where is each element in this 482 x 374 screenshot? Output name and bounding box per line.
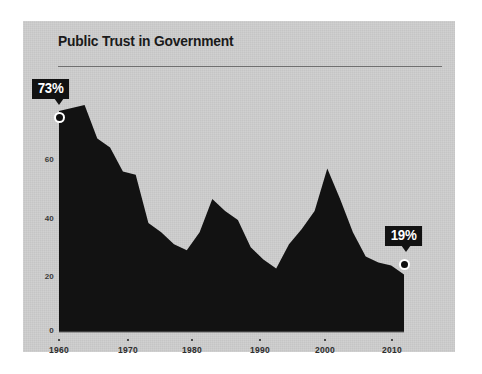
area-chart-plot — [23, 21, 455, 352]
y-tick-label-60: 60 — [34, 155, 54, 164]
x-tick-mark-2010 — [391, 339, 393, 341]
x-tick-mark-1990 — [259, 339, 261, 341]
x-tick-mark-1960 — [58, 339, 60, 341]
y-tick-label-0: 0 — [34, 326, 54, 335]
x-tick-mark-1980 — [191, 339, 193, 341]
chart-screenshot: Public Trust in Government 60 40 20 0 19… — [0, 0, 482, 374]
trust-area-series — [59, 105, 404, 332]
x-tick-mark-1970 — [127, 339, 129, 341]
latest-value-callout: 19% — [385, 226, 424, 252]
callout-pointer-icon — [54, 98, 64, 105]
x-tick-label-2000: 2000 — [305, 345, 345, 355]
y-tick-label-40: 40 — [34, 214, 54, 223]
x-tick-label-1990: 1990 — [240, 345, 280, 355]
callout-pointer-icon — [401, 245, 411, 252]
chart-card: Public Trust in Government 60 40 20 0 19… — [23, 21, 455, 352]
x-tick-label-1960: 1960 — [39, 345, 79, 355]
y-tick-label-20: 20 — [34, 272, 54, 281]
x-tick-label-2010: 2010 — [372, 345, 412, 355]
x-tick-label-1980: 1980 — [172, 345, 212, 355]
latest-value-label: 19% — [385, 226, 422, 246]
x-tick-label-1970: 1970 — [108, 345, 148, 355]
peak-data-point-marker — [56, 114, 63, 121]
peak-value-label: 73% — [32, 79, 69, 99]
x-tick-mark-2000 — [324, 339, 326, 341]
latest-data-point-marker — [401, 261, 408, 268]
peak-value-callout: 73% — [32, 79, 71, 105]
